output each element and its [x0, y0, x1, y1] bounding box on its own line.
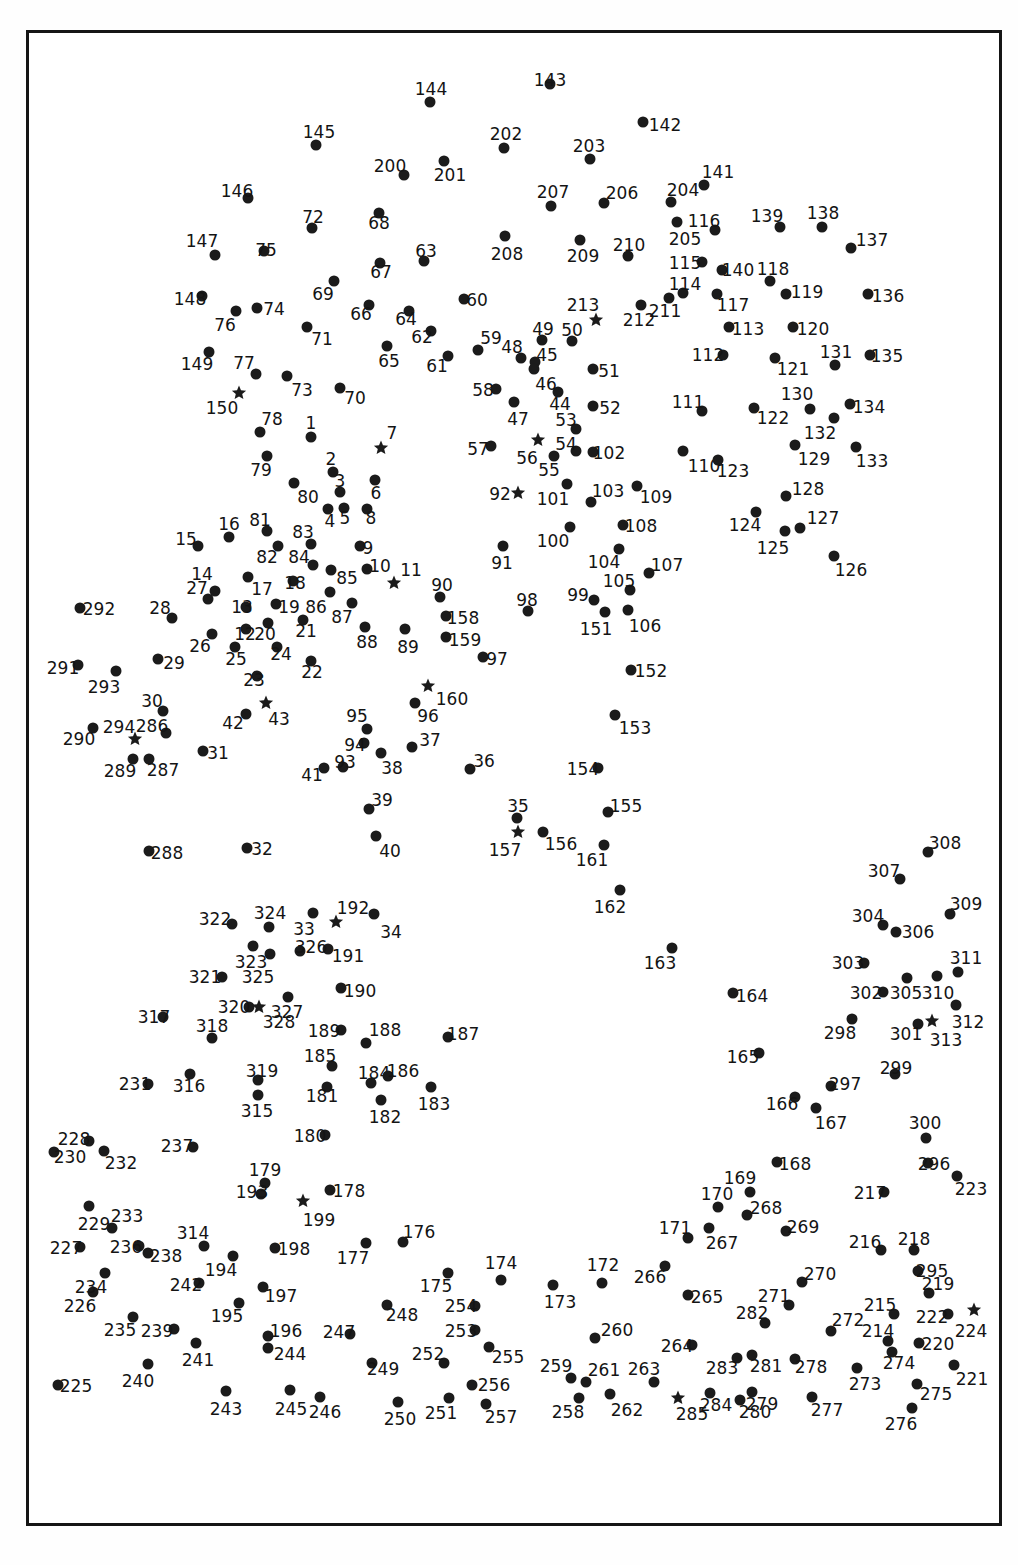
point-label-21: 21 — [295, 623, 317, 640]
point-label-264: 264 — [661, 1338, 693, 1355]
point-label-137: 137 — [856, 232, 888, 249]
data-point-56 — [531, 433, 546, 448]
point-label-18: 18 — [284, 575, 306, 592]
data-point-34 — [369, 909, 380, 920]
point-label-122: 122 — [757, 410, 789, 427]
point-label-94: 94 — [344, 737, 366, 754]
point-label-283: 283 — [706, 1360, 738, 1377]
point-label-88: 88 — [356, 634, 378, 651]
star-marker-icon — [296, 1194, 311, 1209]
data-point-199 — [296, 1194, 311, 1209]
circle-marker-icon — [498, 541, 509, 552]
data-point-91 — [498, 541, 509, 552]
point-label-201: 201 — [434, 167, 466, 184]
circle-marker-icon — [467, 1380, 478, 1391]
point-label-113: 113 — [732, 321, 764, 338]
point-label-221: 221 — [956, 1371, 988, 1388]
scatter-plot-layer: 1234567891011121314151617181920212223242… — [0, 0, 1018, 1565]
point-label-258: 258 — [552, 1404, 584, 1421]
data-point-174 — [496, 1275, 507, 1286]
point-label-261: 261 — [588, 1362, 620, 1379]
circle-marker-icon — [400, 624, 411, 635]
data-point-74 — [252, 303, 263, 314]
point-label-223: 223 — [955, 1181, 987, 1198]
data-point-244 — [263, 1343, 274, 1354]
point-label-262: 262 — [611, 1402, 643, 1419]
point-label-320: 320 — [218, 999, 250, 1016]
point-label-253: 253 — [445, 1323, 477, 1340]
point-label-297: 297 — [829, 1076, 861, 1093]
point-label-226: 226 — [64, 1298, 96, 1315]
point-label-192: 192 — [337, 900, 369, 917]
point-label-109: 109 — [640, 489, 672, 506]
circle-marker-icon — [588, 401, 599, 412]
point-label-295: 295 — [916, 1263, 948, 1280]
circle-marker-icon — [623, 605, 634, 616]
point-label-228: 228 — [58, 1131, 90, 1148]
point-label-95: 95 — [346, 708, 368, 725]
point-label-51: 51 — [598, 363, 620, 380]
circle-marker-icon — [672, 217, 683, 228]
point-label-172: 172 — [587, 1257, 619, 1274]
point-label-114: 114 — [669, 276, 701, 293]
point-label-6: 6 — [371, 485, 382, 502]
circle-marker-icon — [84, 1201, 95, 1212]
point-label-256: 256 — [478, 1377, 510, 1394]
point-label-102: 102 — [593, 445, 625, 462]
circle-marker-icon — [546, 201, 557, 212]
circle-marker-icon — [143, 1359, 154, 1370]
data-point-260 — [590, 1333, 601, 1344]
point-label-244: 244 — [274, 1346, 306, 1363]
point-label-9: 9 — [363, 540, 374, 557]
point-label-263: 263 — [628, 1361, 660, 1378]
point-label-117: 117 — [717, 297, 749, 314]
point-label-241: 241 — [182, 1352, 214, 1369]
point-label-326: 326 — [295, 939, 327, 956]
circle-marker-icon — [248, 941, 259, 952]
point-label-227: 227 — [50, 1240, 82, 1257]
point-label-252: 252 — [412, 1346, 444, 1363]
point-label-28: 28 — [149, 600, 171, 617]
point-label-183: 183 — [418, 1096, 450, 1113]
circle-marker-icon — [589, 595, 600, 606]
point-label-173: 173 — [544, 1294, 576, 1311]
point-label-243: 243 — [210, 1401, 242, 1418]
star-marker-icon — [421, 679, 436, 694]
circle-marker-icon — [795, 523, 806, 534]
point-label-164: 164 — [736, 988, 768, 1005]
point-label-205: 205 — [669, 231, 701, 248]
point-label-301: 301 — [890, 1026, 922, 1043]
point-label-268: 268 — [750, 1200, 782, 1217]
point-label-90: 90 — [431, 577, 453, 594]
point-label-177: 177 — [337, 1250, 369, 1267]
data-point-106 — [623, 605, 634, 616]
point-label-316: 316 — [173, 1078, 205, 1095]
point-label-100: 100 — [537, 533, 569, 550]
circle-marker-icon — [426, 1082, 437, 1093]
point-label-65: 65 — [378, 353, 400, 370]
data-point-92 — [511, 486, 526, 501]
circle-marker-icon — [500, 231, 511, 242]
point-label-68: 68 — [368, 215, 390, 232]
point-label-84: 84 — [288, 549, 310, 566]
point-label-273: 273 — [849, 1376, 881, 1393]
point-label-277: 277 — [811, 1402, 843, 1419]
point-label-179: 179 — [249, 1162, 281, 1179]
point-label-282: 282 — [736, 1305, 768, 1322]
data-point-310 — [932, 971, 943, 982]
point-label-101: 101 — [537, 491, 569, 508]
point-label-176: 176 — [403, 1224, 435, 1241]
data-point-7 — [374, 441, 389, 456]
point-label-299: 299 — [880, 1060, 912, 1077]
point-label-99: 99 — [567, 587, 589, 604]
point-label-123: 123 — [717, 463, 749, 480]
point-label-38: 38 — [381, 760, 403, 777]
point-label-200: 200 — [374, 158, 406, 175]
star-marker-icon — [589, 313, 604, 328]
point-label-13: 13 — [231, 599, 253, 616]
point-label-97: 97 — [486, 651, 508, 668]
point-label-89: 89 — [397, 639, 419, 656]
point-label-167: 167 — [815, 1115, 847, 1132]
point-label-288: 288 — [151, 845, 183, 862]
circle-marker-icon — [597, 1278, 608, 1289]
